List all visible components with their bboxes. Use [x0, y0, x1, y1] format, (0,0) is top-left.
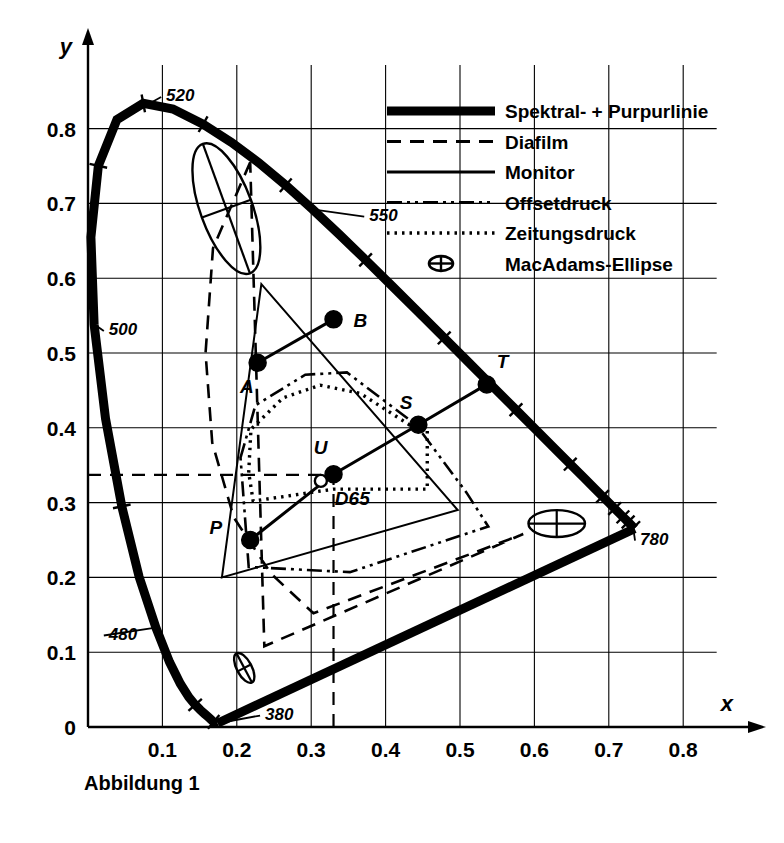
wavelength-label-380: 380	[265, 705, 294, 724]
figure-caption-text: Abbildung 1	[84, 772, 200, 794]
x-tick-label-5: 0.6	[520, 738, 549, 761]
legend-label-0[interactable]: Spektral- + Purpurlinie	[505, 101, 708, 122]
legend-label-4[interactable]: Zeitungsdruck	[505, 223, 636, 244]
wavelength-label-500: 500	[109, 320, 138, 339]
y-tick-label-0: 0.1	[47, 641, 77, 664]
chromaticity-diagram: ABPSTUD65 520550500480380780 0.10.20.30.…	[0, 0, 784, 843]
macadam-ellipse-2	[230, 650, 259, 686]
macadam-ellipse-1	[528, 510, 585, 537]
series-diafilm	[206, 162, 524, 646]
x-tick-label-4: 0.5	[445, 738, 475, 761]
x-tick-label-3: 0.4	[371, 738, 401, 761]
figure-caption: Abbildung 1	[84, 772, 200, 795]
x-axis-arrowhead	[748, 721, 766, 733]
macadam-ellipse-0	[178, 135, 274, 282]
data-point-p[interactable]	[242, 532, 259, 549]
macadam-ellipse-minor-axis-2	[237, 653, 252, 682]
y-tick-label-2: 0.3	[47, 492, 76, 515]
y-tick-label-1: 0.2	[47, 566, 76, 589]
data-point-label-a: A	[239, 376, 254, 397]
data-point-label-b: B	[354, 310, 368, 331]
data-point-label-p: P	[210, 517, 223, 538]
data-point-s[interactable]	[410, 416, 427, 433]
data-point-a[interactable]	[249, 354, 266, 371]
wavelength-label-520: 520	[166, 86, 195, 105]
y-tick-label-6: 0.7	[47, 192, 76, 215]
data-point-t[interactable]	[478, 376, 495, 393]
data-point-d65[interactable]	[315, 475, 327, 487]
data-point-label-t: T	[497, 351, 510, 372]
wavelength-label-780: 780	[640, 530, 669, 549]
y-tick-label-4: 0.5	[47, 342, 77, 365]
legend-swatch-5	[429, 256, 453, 271]
wavelength-label-550: 550	[369, 206, 398, 225]
x-tick-label-7: 0.8	[669, 738, 699, 761]
legend-label-2[interactable]: Monitor	[505, 162, 575, 183]
y-axis-name: y	[59, 34, 74, 59]
x-tick-label-2: 0.3	[297, 738, 326, 761]
y-tick-label-3: 0.4	[47, 417, 77, 440]
macadam-ellipse-minor-axis-0	[203, 144, 250, 273]
y-tick-label-5: 0.6	[47, 267, 76, 290]
figure-container: ABPSTUD65 520550500480380780 0.10.20.30.…	[0, 0, 784, 843]
data-point-label-u: U	[314, 437, 329, 458]
legend-layer: Spektral- + PurpurlinieDiafilmMonitorOff…	[387, 101, 708, 275]
legend-label-5[interactable]: MacAdams-Ellipse	[505, 254, 673, 275]
data-point-b[interactable]	[325, 311, 342, 328]
x-tick-label-6: 0.7	[594, 738, 623, 761]
locus-tick-4	[142, 94, 145, 112]
series-purpurlinie	[218, 529, 635, 724]
legend-label-1[interactable]: Diafilm	[505, 132, 568, 153]
spectral-locus-layer	[90, 94, 640, 728]
gamut-outlines-layer	[206, 162, 524, 646]
x-tick-label-0: 0.1	[148, 738, 178, 761]
origin-label: 0	[64, 716, 76, 739]
x-axis-name: x	[720, 691, 734, 716]
y-tick-label-7: 0.8	[47, 118, 77, 141]
wavelength-labels-layer: 520550500480380780	[95, 86, 669, 724]
series-linie-a-b	[258, 319, 334, 362]
y-axis-arrowhead	[82, 28, 94, 45]
legend-label-3[interactable]: Offsetdruck	[505, 193, 612, 214]
data-point-label-s: S	[400, 392, 413, 413]
data-point-label-d65: D65	[335, 488, 370, 509]
x-tick-label-1: 0.2	[222, 738, 251, 761]
